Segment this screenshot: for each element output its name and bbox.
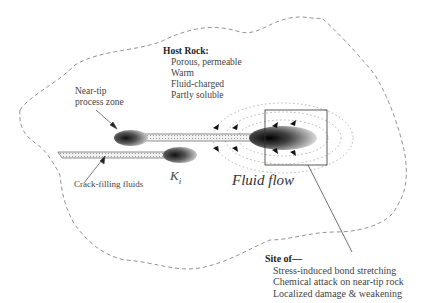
crack-tip-lower bbox=[163, 147, 197, 163]
crack-fluids-label: Crack-filling fluids bbox=[74, 179, 143, 190]
site-of-item: Chemical attack on near-tip rock bbox=[265, 276, 404, 288]
process-zone-label: Near-tip process zone bbox=[75, 86, 124, 108]
host-rock-label: Host Rock: Porous, permeable Warm Fluid-… bbox=[163, 46, 242, 101]
host-rock-property: Warm bbox=[163, 68, 242, 79]
site-of-title: Site of— bbox=[265, 253, 404, 265]
host-rock-property: Porous, permeable bbox=[163, 57, 242, 68]
host-rock-property: Fluid-charged bbox=[163, 79, 242, 90]
host-rock-property: Partly soluble bbox=[163, 90, 242, 101]
lower-crack-channel bbox=[58, 152, 170, 158]
site-of-item: Stress-induced bond stretching bbox=[265, 265, 404, 277]
host-rock-title: Host Rock: bbox=[163, 46, 242, 57]
stress-intensity-label: Ki bbox=[170, 170, 181, 187]
site-of-label: Site of— Stress-induced bond stretching … bbox=[265, 253, 404, 299]
fluid-flow-label: Fluid flow bbox=[232, 172, 294, 188]
site-leader-line bbox=[308, 165, 352, 252]
near-tip-process-zone-left bbox=[114, 130, 148, 146]
crack-tip-main bbox=[249, 126, 317, 150]
site-of-item: Localized damage & weakening bbox=[265, 288, 404, 300]
label-arrows bbox=[84, 110, 117, 183]
